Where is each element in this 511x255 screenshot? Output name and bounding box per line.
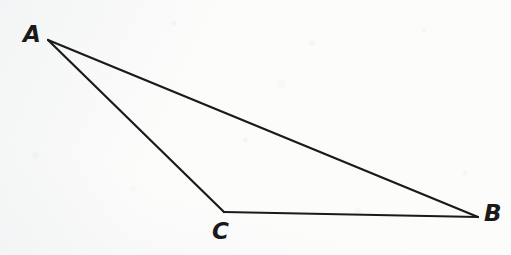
triangle-figure [0,0,511,255]
edge-ac [48,40,224,212]
edge-ab [48,40,478,217]
triangle-diagram-canvas: A B C [0,0,511,255]
vertex-label-c: C [212,220,229,243]
edge-cb [224,212,478,217]
vertex-label-a: A [23,23,41,46]
vertex-label-b: B [484,202,502,225]
